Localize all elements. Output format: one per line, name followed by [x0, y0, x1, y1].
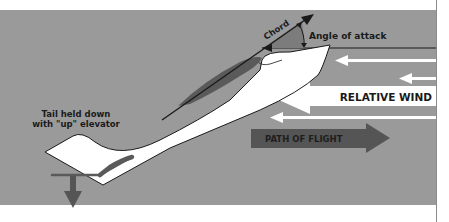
angle-of-attack-diagram: RELATIVE WIND PATH OF FLIGHT Chord Angle…	[0, 0, 449, 222]
tail-label-line2: with "up" elevator	[32, 119, 120, 129]
relative-wind-label: RELATIVE WIND	[340, 91, 433, 103]
path-of-flight-label: PATH OF FLIGHT	[265, 134, 343, 144]
tail-label-line1: Tail held down	[42, 109, 111, 119]
angle-of-attack-label: Angle of attack	[309, 31, 387, 41]
